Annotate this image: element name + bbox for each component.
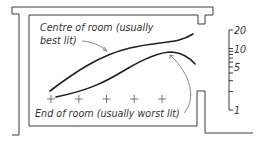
right-wall-sill — [197, 91, 253, 133]
scale-tick-label: 20 — [234, 25, 246, 36]
centre-leader-arrowhead — [103, 47, 107, 51]
measurement-point-cross — [75, 95, 83, 103]
room-section-diagram: Centre of room (usually best lit) End of… — [0, 0, 264, 143]
scale-tick-label: 1 — [234, 105, 240, 116]
scale-tick-label: 5 — [234, 62, 240, 73]
left-wall — [12, 14, 19, 135]
centre-label-line2: best lit) — [40, 35, 77, 46]
scale-tick-label: 10 — [234, 44, 246, 55]
centre-label-leader — [82, 41, 107, 51]
measurement-point-cross — [130, 95, 138, 103]
end-label: End of room (usually worst lit) — [35, 108, 180, 119]
measurement-points — [47, 95, 166, 103]
daylight-factor-scale: 201051 — [229, 25, 246, 116]
centre-label-line1: Centre of room (usually — [40, 22, 154, 33]
measurement-point-cross — [158, 95, 166, 103]
measurement-point-cross — [103, 95, 111, 103]
end-label-leader — [170, 55, 191, 113]
measurement-point-cross — [47, 95, 55, 103]
